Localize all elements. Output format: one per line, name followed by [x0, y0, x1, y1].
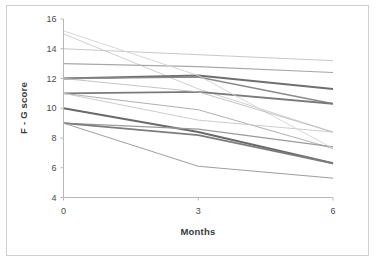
y-tick-label: 8: [51, 133, 56, 143]
y-tick-label: 10: [46, 103, 56, 113]
series-line-subject-14: [64, 79, 334, 133]
y-tick-label: 16: [46, 14, 56, 24]
series-group: [64, 31, 334, 178]
x-tick-labels: 036: [61, 206, 336, 216]
x-tick-label: 0: [61, 206, 66, 216]
y-tick-label: 14: [46, 44, 56, 54]
x-tick-label: 6: [330, 206, 335, 216]
x-tick-label: 3: [196, 206, 201, 216]
x-axis-title: Months: [181, 226, 216, 237]
y-tick-labels: 46810121416: [46, 14, 56, 203]
y-tick-label: 12: [46, 74, 56, 84]
series-line-subject-2: [64, 49, 334, 61]
y-tick-label: 4: [51, 193, 56, 203]
chart-figure: 46810121416 036 F - G score Months: [0, 0, 376, 263]
line-chart: 46810121416 036 F - G score Months: [0, 0, 376, 263]
series-line-subject-3: [64, 64, 334, 73]
series-line-subject-13: [64, 31, 334, 149]
y-tick-label: 6: [51, 163, 56, 173]
y-axis-title: F - G score: [18, 82, 29, 134]
